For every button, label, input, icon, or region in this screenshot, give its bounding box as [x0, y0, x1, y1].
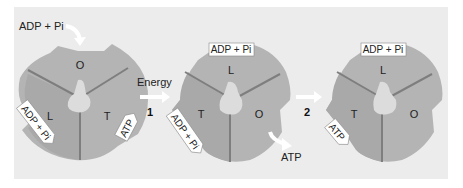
state-3-top-tag: ADP + Pi: [361, 43, 406, 56]
binding-change-diagram: O L T ADP + Pi ATP ADP + Pi Energy 1 L T…: [0, 0, 463, 188]
step-1-arrow-icon: [140, 95, 164, 99]
step-2-number: 2: [304, 106, 310, 118]
svg-text:ADP + Pi: ADP + Pi: [363, 44, 404, 55]
output-label: ATP: [281, 151, 302, 163]
state-1: O L T ADP + Pi ATP ADP + Pi: [16, 20, 148, 160]
state-2: L T O ADP + Pi ADP + Pi ATP: [166, 43, 301, 163]
state-2-section-top: L: [228, 64, 234, 76]
state-3: L T O ADP + Pi ATP: [325, 43, 443, 162]
state-3-section-right: O: [410, 108, 419, 120]
energy-label: Energy: [137, 76, 172, 88]
state-1-section-top: O: [76, 59, 85, 71]
state-2-section-right: O: [255, 108, 264, 120]
svg-text:ADP + Pi: ADP + Pi: [211, 44, 252, 55]
step-2-arrow-icon: [296, 95, 316, 99]
state-3-section-top: L: [380, 64, 386, 76]
input-label: ADP + Pi: [19, 20, 64, 32]
step-1-number: 1: [147, 106, 153, 118]
state-2-section-left: T: [198, 108, 205, 120]
state-2-top-tag: ADP + Pi: [209, 43, 254, 56]
state-1-section-left: L: [47, 110, 53, 122]
state-3-section-left: T: [351, 108, 358, 120]
state-1-section-right: T: [104, 110, 111, 122]
